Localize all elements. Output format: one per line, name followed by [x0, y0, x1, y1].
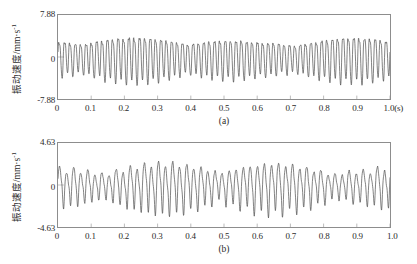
x-tick-9: 0.9: [352, 231, 363, 241]
x-tick-4: 0.4: [185, 103, 196, 113]
x-tick-0: 0: [55, 103, 59, 113]
x-tick-10: 1.0(s): [384, 103, 404, 113]
x-tick-8: 0.8: [319, 103, 330, 113]
waveform-svg-b: [58, 143, 390, 227]
y-tick-min-a: -7.88: [22, 96, 55, 105]
x-tick-5: 0.5: [219, 231, 230, 241]
x-tick-10: 1.0: [387, 231, 398, 241]
plot-area-a: [57, 14, 391, 100]
y-axis-label-text-a: 振动速度/mm·s: [12, 30, 22, 94]
x-tick-1: 0.1: [85, 103, 96, 113]
x-tick-4: 0.4: [185, 231, 196, 241]
subplot-caption-b: (b): [57, 244, 391, 255]
x-tick-6: 0.6: [252, 103, 263, 113]
y-tick-mid-b: 0: [22, 183, 55, 192]
x-tick-7: 0.7: [285, 103, 296, 113]
y-axis-label-exponent-b: -1: [10, 152, 18, 158]
x-tick-7: 0.7: [285, 231, 296, 241]
y-axis-label-text-b: 振动速度/mm·s: [12, 158, 22, 222]
x-tick-2: 0.2: [118, 103, 129, 113]
y-tick-max-a: 7.88: [22, 10, 55, 19]
waveform-trace: [58, 38, 390, 86]
x-axis-ticks-a: 00.10.20.30.40.50.60.70.80.91.0(s): [57, 103, 391, 115]
x-tick-1: 0.1: [85, 231, 96, 241]
subplot-b: 4.63 0 -4.63 振动速度/mm·s-1 00.10.20.30.40.…: [0, 131, 417, 264]
waveform-trace: [58, 161, 390, 218]
y-tick-max-b: 4.63: [22, 138, 55, 147]
subplot-a: 7.88 0 -7.88 振动速度/mm·s-1 00.10.20.30.40.…: [0, 0, 417, 132]
x-tick-0: 0: [55, 231, 59, 241]
waveform-svg-a: [58, 15, 390, 99]
x-tick-6: 0.6: [252, 231, 263, 241]
plot-area-b: [57, 142, 391, 228]
y-axis-label-exponent-a: -1: [10, 24, 18, 30]
x-tick-3: 0.3: [152, 231, 163, 241]
x-tick-9: 0.9: [352, 103, 363, 113]
y-axis-label-b: 振动速度/mm·s-1: [9, 137, 23, 237]
x-tick-2: 0.2: [118, 231, 129, 241]
x-axis-ticks-b: 00.10.20.30.40.50.60.70.80.91.0: [57, 231, 391, 243]
x-tick-3: 0.3: [152, 103, 163, 113]
y-axis-label-a: 振动速度/mm·s-1: [9, 9, 23, 109]
y-tick-mid-a: 0: [22, 55, 55, 64]
x-tick-5: 0.5: [219, 103, 230, 113]
x-tick-8: 0.8: [319, 231, 330, 241]
y-tick-min-b: -4.63: [22, 224, 55, 233]
vibration-velocity-figure: 7.88 0 -7.88 振动速度/mm·s-1 00.10.20.30.40.…: [0, 0, 417, 264]
subplot-caption-a: (a): [57, 116, 391, 127]
